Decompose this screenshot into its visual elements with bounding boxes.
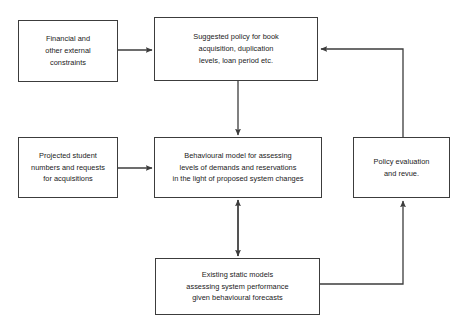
node-suggested-policy[interactable]: Suggested policy for book acquisition, d…	[154, 17, 318, 81]
node-projected-student-numbers[interactable]: Projected student numbers and requests f…	[18, 137, 118, 198]
node-financial-constraints[interactable]: Financial and other external constraints	[18, 20, 118, 82]
edge-evaluation-to-policy	[321, 49, 403, 137]
node-behavioural-model-label: Behavioural model for assessing levels o…	[169, 150, 306, 186]
node-policy-evaluation-label: Policy evaluation and revue.	[371, 156, 433, 180]
flow-diagram: Financial and other external constraints…	[0, 0, 467, 326]
node-suggested-policy-label: Suggested policy for book acquisition, d…	[190, 31, 282, 67]
node-existing-static-models-label: Existing static models assessing system …	[183, 269, 291, 305]
node-policy-evaluation[interactable]: Policy evaluation and revue.	[353, 137, 450, 198]
node-projected-student-numbers-label: Projected student numbers and requests f…	[28, 150, 108, 186]
node-behavioural-model[interactable]: Behavioural model for assessing levels o…	[154, 137, 322, 198]
node-financial-constraints-label: Financial and other external constraints	[42, 33, 93, 69]
edge-existing-to-evaluation	[320, 201, 403, 284]
node-existing-static-models[interactable]: Existing static models assessing system …	[155, 258, 320, 315]
